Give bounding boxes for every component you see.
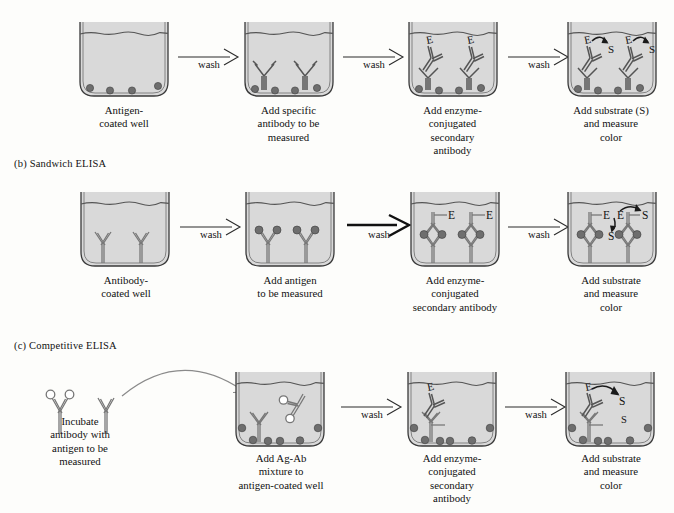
- well-antigen-captured: [238, 190, 342, 272]
- arrow-wash-a-2: wash: [343, 48, 405, 78]
- well-substrate-color: E E S S: [560, 20, 664, 102]
- caption-b-4: Add substrate and measure color: [548, 274, 674, 314]
- arrow-label-b-1: wash: [180, 229, 242, 240]
- arrow-label-c-1: wash: [341, 409, 403, 420]
- well-competitive-mixture: [228, 370, 332, 452]
- well-primary-antibody: [237, 20, 341, 102]
- caption-b-3: Add enzyme- conjugated secondary antibod…: [388, 274, 522, 314]
- substrate-label: S: [608, 230, 614, 242]
- well-enzyme-secondary-antibody: E E: [401, 20, 505, 102]
- substrate-label: S: [649, 43, 655, 55]
- section-label-b: (b) Sandwich ELISA: [14, 158, 106, 169]
- well-competitive-enzyme: E: [400, 370, 504, 452]
- substrate-label: S: [642, 209, 648, 221]
- substrate-label: S: [621, 414, 627, 425]
- section-label-c: (c) Competitive ELISA: [14, 340, 117, 351]
- well-sandwich-substrate: E E S S: [560, 190, 664, 272]
- caption-a-3: Add enzyme- conjugated secondary antibod…: [390, 104, 515, 158]
- arrow-wash-b-2: wash: [347, 215, 411, 247]
- elisa-figure: Antigen- coated well wash: [0, 0, 674, 513]
- arrow-wash-c-1: wash: [341, 398, 403, 428]
- enzyme-label: E: [448, 209, 455, 221]
- well-sandwich-enzyme: E E: [403, 190, 507, 272]
- caption-c-3: Add enzyme- conjugated secondary antibod…: [388, 452, 516, 506]
- arrow-label-a-1: wash: [178, 59, 240, 70]
- arrow-label-b-2: wash: [347, 229, 411, 240]
- well-antigen-coated: [72, 20, 176, 102]
- enzyme-label: E: [486, 209, 493, 221]
- arrow-wash-b-1: wash: [180, 218, 242, 248]
- well-competitive-substrate: E S S: [558, 370, 662, 452]
- arrow-label-a-2: wash: [343, 59, 405, 70]
- substrate-label: S: [608, 43, 614, 55]
- well-antibody-coated: [73, 190, 177, 272]
- transfer-arrow: [122, 370, 242, 396]
- caption-c-2: Add Ag-Ab mixture to antigen-coated well: [215, 452, 347, 492]
- caption-c-1: Incubate antibody with antigen to be mea…: [12, 415, 148, 469]
- caption-a-4: Add substrate (S) and measure color: [548, 104, 674, 144]
- caption-a-2: Add specific antibody to be measured: [226, 104, 351, 144]
- substrate-label: S: [619, 395, 625, 407]
- caption-b-1: Antibody- coated well: [66, 274, 186, 301]
- caption-b-2: Add antigen to be measured: [225, 274, 355, 301]
- enzyme-label: E: [603, 209, 610, 221]
- arrow-wash-a-1: wash: [178, 48, 240, 78]
- caption-a-1: Antigen- coated well: [64, 104, 184, 131]
- caption-c-4: Add substrate and measure color: [548, 452, 674, 492]
